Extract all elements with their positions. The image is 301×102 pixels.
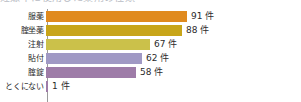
value-label: 67 件 <box>150 39 177 49</box>
bar-row: 貼付 62 件 <box>0 51 301 65</box>
category-label: 注射 <box>0 40 46 49</box>
value-label: 62 件 <box>142 53 169 63</box>
bar-track: 62 件 <box>46 51 301 65</box>
bar-chart: 妊娠中に使用した薬剤の種類 服薬 91 件 腟坐薬 88 件 注射 67 件 <box>0 0 301 102</box>
bar-row: 注射 67 件 <box>0 37 301 51</box>
category-label: 貼付 <box>0 54 46 63</box>
category-label: 服薬 <box>0 12 46 21</box>
bar-track: 67 件 <box>46 37 301 51</box>
chart-title-clipped: 妊娠中に使用した薬剤の種類 <box>0 0 301 3</box>
category-label: 腟坐薬 <box>0 26 46 35</box>
plot-area: 服薬 91 件 腟坐薬 88 件 注射 67 件 貼付 62 件 <box>0 9 301 102</box>
bar-segment <box>46 39 150 50</box>
bar-segment <box>46 53 142 64</box>
bar-track: 1 件 <box>46 79 301 93</box>
value-label: 1 件 <box>48 81 70 91</box>
value-label: 91 件 <box>187 11 214 21</box>
bar-row: 服薬 91 件 <box>0 9 301 23</box>
bar-row: 腟錠 58 件 <box>0 65 301 79</box>
bar-track: 91 件 <box>46 9 301 23</box>
bar-segment <box>46 67 136 78</box>
category-label: 腟錠 <box>0 68 46 77</box>
bar-track: 88 件 <box>46 23 301 37</box>
category-label: とくにない <box>0 82 46 91</box>
bar-segment <box>46 25 182 36</box>
bar-track: 58 件 <box>46 65 301 79</box>
bar-segment <box>46 11 187 22</box>
value-label: 58 件 <box>136 67 163 77</box>
bar-row: とくにない 1 件 <box>0 79 301 93</box>
value-label: 88 件 <box>182 25 209 35</box>
bar-row: 腟坐薬 88 件 <box>0 23 301 37</box>
